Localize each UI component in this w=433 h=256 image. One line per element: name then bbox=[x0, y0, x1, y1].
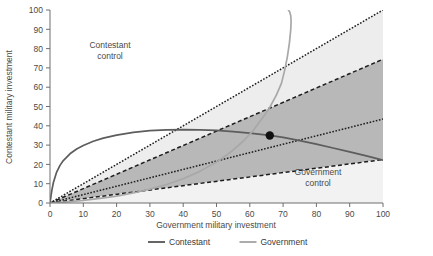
contestant-control-label-line2: control bbox=[97, 51, 123, 61]
x-tick-label: 0 bbox=[48, 209, 53, 219]
equilibrium-point-dot bbox=[266, 131, 274, 139]
y-tick-label: 50 bbox=[34, 102, 44, 112]
military-investment-chart: 0102030405060708090100 01020304050607080… bbox=[0, 0, 433, 256]
x-tick-label: 100 bbox=[376, 209, 390, 219]
x-tick-label: 20 bbox=[112, 209, 122, 219]
x-tick-label: 60 bbox=[245, 209, 255, 219]
y-tick-label: 0 bbox=[38, 198, 43, 208]
y-tick-label: 40 bbox=[34, 121, 44, 131]
equilibrium-marker bbox=[266, 131, 274, 139]
y-tick-label: 10 bbox=[34, 179, 44, 189]
y-axis-title: Contestant military investment bbox=[4, 49, 14, 163]
x-axis-title: Government military investment bbox=[156, 220, 276, 230]
government-control-label-line1: Government bbox=[295, 167, 342, 177]
x-tick-label: 90 bbox=[345, 209, 355, 219]
y-tick-label: 80 bbox=[34, 44, 44, 54]
government-control-label-line2: control bbox=[305, 178, 331, 188]
legend-label-contestant: Contestant bbox=[169, 237, 211, 247]
chart-figure: 0102030405060708090100 01020304050607080… bbox=[0, 0, 433, 256]
y-tick-label: 60 bbox=[34, 82, 44, 92]
x-tick-label: 40 bbox=[178, 209, 188, 219]
x-tick-label: 30 bbox=[145, 209, 155, 219]
x-tick-label: 50 bbox=[212, 209, 222, 219]
x-tick-label: 70 bbox=[278, 209, 288, 219]
y-tick-label: 30 bbox=[34, 140, 44, 150]
y-tick-label: 20 bbox=[34, 160, 44, 170]
y-tick-label: 100 bbox=[29, 5, 43, 15]
y-tick-label: 90 bbox=[34, 25, 44, 35]
y-tick-label: 70 bbox=[34, 63, 44, 73]
x-tick-label: 80 bbox=[312, 209, 322, 219]
legend-label-government: Government bbox=[261, 237, 308, 247]
contestant-control-label-line1: Contestant bbox=[89, 40, 131, 50]
x-tick-label: 10 bbox=[79, 209, 89, 219]
